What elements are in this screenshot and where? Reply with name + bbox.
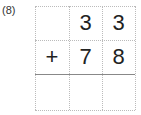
cell-r1-c2: 8 xyxy=(102,40,135,74)
addition-grid: 3 3 + 7 8 xyxy=(35,6,135,110)
cell-r1-c1: 7 xyxy=(69,40,102,74)
cell-r0-c0 xyxy=(35,6,69,40)
cell-r0-c1: 3 xyxy=(69,6,102,40)
problem-number: (8) xyxy=(2,4,15,16)
answer-cell-1[interactable] xyxy=(69,74,102,110)
grid-line xyxy=(35,110,135,111)
answer-cell-2[interactable] xyxy=(102,74,135,110)
answer-cell-0[interactable] xyxy=(35,74,69,110)
grid-line xyxy=(135,6,136,110)
cell-r0-c2: 3 xyxy=(102,6,135,40)
plus-sign: + xyxy=(35,40,69,74)
